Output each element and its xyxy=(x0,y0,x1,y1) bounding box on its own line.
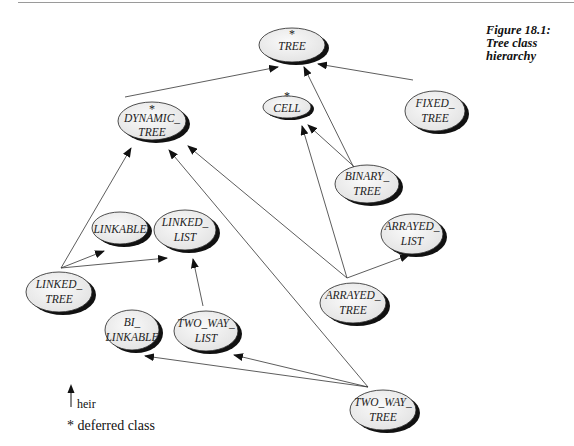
node-linkable[interactable]: LINKABLE xyxy=(92,212,152,247)
edge-dynamic_tree-tree xyxy=(125,67,278,97)
legend-deferred-label: * deferred class xyxy=(67,418,155,434)
figure-caption: Figure 18.1: Tree class hierarchy xyxy=(486,24,574,63)
node-dynamic-tree[interactable]: * DYNAMIC_ TREE xyxy=(118,102,190,143)
node-label: LIST xyxy=(400,235,425,247)
node-label: LINKED_ xyxy=(35,278,83,290)
node-label: CELL xyxy=(273,102,301,114)
node-label: LIST xyxy=(194,332,219,344)
deferred-marker: * xyxy=(289,27,295,41)
node-tree[interactable]: * TREE xyxy=(259,27,329,65)
edge-arrayed_tree-cell xyxy=(302,126,347,278)
node-bi-linkable[interactable]: BI_ LINKABLE xyxy=(104,310,163,353)
node-binary-tree[interactable]: BINARY_ TREE xyxy=(335,165,403,206)
node-label: TREE xyxy=(339,304,366,316)
caption-title: Tree class hierarchy xyxy=(486,37,574,63)
node-label: ARRAYED_ xyxy=(384,220,440,232)
node-two-way-tree[interactable]: TWO_WAY_ TREE xyxy=(350,390,420,433)
node-label: TREE xyxy=(278,40,305,52)
node-arrayed-tree[interactable]: ARRAYED_ TREE xyxy=(320,283,390,326)
edge-linked_tree-dynamic_tree xyxy=(61,148,131,268)
edge-arrayed_tree-arrayed_list xyxy=(347,255,409,278)
class-hierarchy-diagram: * TREE * DYNAMIC_ TREE * CELL FIXED_ TRE… xyxy=(0,0,574,446)
edge-linked_tree-linkable xyxy=(61,251,104,268)
node-cell[interactable]: * CELL xyxy=(263,89,314,120)
node-label: LIST xyxy=(173,231,198,243)
node-label: TREE xyxy=(138,126,165,138)
edge-arrayed_tree-dynamic_tree xyxy=(188,146,347,278)
edge-linked_tree-linked_list xyxy=(61,258,167,268)
node-label: TREE xyxy=(369,411,396,423)
node-label: DYNAMIC_ xyxy=(123,112,180,124)
edge-binary_tree-tree xyxy=(304,67,355,170)
edge-binary_tree-cell xyxy=(308,125,360,172)
class-nodes: * TREE * DYNAMIC_ TREE * CELL FIXED_ TRE… xyxy=(26,27,469,433)
node-label: ARRAYED_ xyxy=(325,289,381,301)
node-label: LINKED_ xyxy=(161,216,209,228)
node-label: FIXED_ xyxy=(415,97,455,109)
deferred-marker: * xyxy=(284,89,290,103)
node-linked-tree[interactable]: LINKED_ TREE xyxy=(26,272,96,315)
edge-fixed_tree-tree xyxy=(318,64,413,80)
node-label: TWO_WAY_ xyxy=(177,317,235,329)
node-label: LINKABLE xyxy=(104,331,158,343)
node-linked-list[interactable]: LINKED_ LIST xyxy=(154,210,220,253)
node-label: LINKABLE xyxy=(92,223,146,235)
node-label: BINARY_ xyxy=(345,170,390,182)
edge-two_way_list-linked_list xyxy=(193,259,203,306)
legend-heir-label: heir xyxy=(77,397,96,412)
node-label: TREE xyxy=(45,293,72,305)
node-label: TWO_WAY_ xyxy=(354,396,412,408)
node-label: TREE xyxy=(353,185,380,197)
node-label: TREE xyxy=(421,112,448,124)
node-fixed-tree[interactable]: FIXED_ TREE xyxy=(405,91,469,134)
node-label: BI_ xyxy=(124,316,141,328)
heir-arrow-icon xyxy=(68,384,75,407)
node-two-way-list[interactable]: TWO_WAY_ LIST xyxy=(174,311,242,354)
node-arrayed-list[interactable]: ARRAYED_ LIST xyxy=(381,214,447,257)
